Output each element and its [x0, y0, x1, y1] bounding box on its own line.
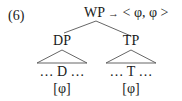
triangle-left	[37, 50, 87, 63]
dp-feature: [φ]	[53, 82, 70, 96]
dp-terminal: … D …	[39, 65, 84, 79]
branch-left	[64, 21, 96, 33]
triangle-right	[106, 50, 156, 63]
tree-branches	[0, 0, 182, 101]
dp-label: DP	[53, 34, 71, 48]
tp-terminal: … T …	[109, 65, 152, 79]
tp-label: TP	[123, 34, 139, 48]
tp-feature: [φ]	[122, 82, 139, 96]
